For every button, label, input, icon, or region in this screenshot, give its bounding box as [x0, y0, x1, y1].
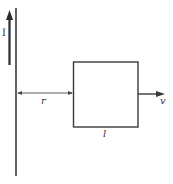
physics-diagram — [0, 0, 173, 184]
current-arrow-icon — [6, 10, 13, 65]
square-loop — [74, 62, 139, 127]
velocity-label: v — [160, 96, 166, 106]
distance-label: r — [41, 96, 46, 106]
side-length-label: l — [103, 129, 106, 139]
